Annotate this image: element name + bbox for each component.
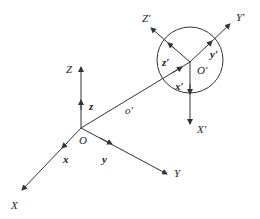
y-prime-vector-arrow bbox=[205, 41, 212, 48]
label-Z: Z bbox=[66, 64, 72, 75]
label-y-prime-vector: y′ bbox=[210, 49, 218, 60]
label-X-prime: X′ bbox=[197, 124, 206, 135]
label-o-prime: o′ bbox=[125, 105, 133, 116]
z-prime-vector-arrow bbox=[168, 43, 174, 48]
label-X: X bbox=[11, 200, 18, 211]
label-Y: Y bbox=[174, 168, 180, 179]
o-prime-arrow bbox=[172, 67, 182, 73]
label-y-vector: y bbox=[102, 154, 107, 165]
label-x-prime-vector: x′ bbox=[175, 81, 184, 92]
y-vector-arrow bbox=[100, 138, 112, 144]
x-axis bbox=[22, 128, 81, 190]
label-O: O bbox=[79, 135, 87, 146]
y-axis bbox=[81, 128, 167, 174]
x-vector-arrow bbox=[62, 142, 68, 148]
label-Y-prime: Y′ bbox=[236, 12, 245, 23]
label-z-prime-vector: z′ bbox=[162, 57, 169, 68]
label-x-vector: x bbox=[63, 154, 69, 165]
label-z-vector: z bbox=[89, 101, 93, 112]
coordinate-frames-diagram: Z X Y O z x y o′ Z′ Y′ X′ z′ y′ x′ O′ bbox=[0, 0, 260, 219]
label-Z-prime: Z′ bbox=[142, 13, 151, 24]
label-O-prime: O′ bbox=[197, 65, 207, 76]
